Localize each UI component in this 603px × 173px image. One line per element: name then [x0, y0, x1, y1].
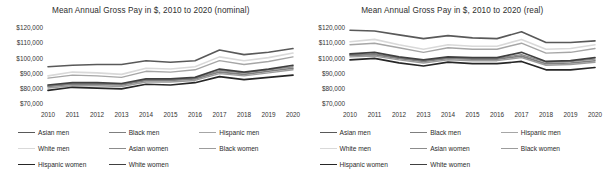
legend-line-swatch-icon [410, 132, 427, 133]
x-axis-tick-label: 2011 [367, 111, 381, 118]
legend-nominal: Asian menBlack menHispanic menWhite menA… [18, 124, 290, 172]
legend-item-asian-women[interactable]: Asian women [109, 140, 200, 156]
legend-item-label: Black men [430, 129, 461, 136]
legend-item-label: Hispanic women [340, 161, 388, 168]
legend-item-label: Black men [129, 129, 160, 136]
x-axis-tick-label: 2019 [563, 111, 578, 118]
x-axis-tick-label: 2016 [188, 111, 203, 118]
legend-item-hispanic-women[interactable]: Hispanic women [18, 156, 109, 172]
legend-item-label: Hispanic men [521, 129, 561, 136]
legend-line-swatch-icon [199, 148, 216, 149]
y-axis-tick-label: $90,000 [20, 70, 44, 77]
y-axis-tick-label: $70,000 [20, 100, 44, 107]
legend-line-swatch-icon [501, 132, 518, 133]
legend-item-hispanic-men[interactable]: Hispanic men [199, 124, 290, 140]
legend-item-asian-men[interactable]: Asian men [18, 124, 109, 140]
x-axis-tick-label: 2012 [90, 111, 105, 118]
legend-real: Asian menBlack menHispanic menWhite menA… [320, 124, 592, 172]
legend-item-label: Hispanic women [38, 161, 86, 168]
y-axis-tick-label: $120,000 [16, 24, 43, 31]
legend-line-swatch-icon [18, 164, 35, 165]
legend-item-white-men[interactable]: White men [320, 140, 411, 156]
legend-item-label: Black women [521, 145, 560, 152]
dual-chart-figure: Mean Annual Gross Pay in $, 2010 to 2020… [0, 0, 603, 173]
y-axis-tick-label: $100,000 [318, 55, 345, 62]
legend-line-swatch-icon [320, 132, 337, 133]
x-axis-tick-label: 2015 [465, 111, 480, 118]
legend-line-swatch-icon [109, 148, 126, 149]
x-axis-tick-label: 2017 [212, 111, 227, 118]
legend-item-hispanic-men[interactable]: Hispanic men [501, 124, 592, 140]
legend-line-swatch-icon [18, 148, 35, 149]
legend-item-white-women[interactable]: White women [410, 156, 501, 172]
x-axis-tick-label: 2013 [114, 111, 129, 118]
x-axis-tick-label: 2010 [41, 111, 56, 118]
page-title: Mean Annual Gross Pay in $, 2010 to 2020… [0, 6, 302, 15]
y-axis-tick-label: $100,000 [16, 55, 43, 62]
x-axis-tick-label: 2011 [66, 111, 80, 118]
legend-item-label: White women [430, 161, 470, 168]
x-axis-tick-label: 2018 [538, 111, 553, 118]
chart-panel-real: Mean Annual Gross Pay in $, 2010 to 2020… [302, 0, 603, 173]
legend-line-swatch-icon [109, 164, 126, 165]
legend-item-label: Asian women [430, 145, 470, 152]
legend-item-label: Asian men [340, 129, 371, 136]
legend-item-label: White men [38, 145, 70, 152]
x-axis-tick-label: 2017 [514, 111, 529, 118]
x-axis-tick-label: 2014 [139, 111, 154, 118]
x-axis-tick-label: 2016 [489, 111, 504, 118]
chart-panel-nominal: Mean Annual Gross Pay in $, 2010 to 2020… [0, 0, 302, 173]
legend-line-swatch-icon [109, 132, 126, 133]
legend-item-asian-women[interactable]: Asian women [410, 140, 501, 156]
y-axis-tick-label: $90,000 [321, 70, 345, 77]
legend-line-swatch-icon [410, 148, 427, 149]
legend-item-black-women[interactable]: Black women [501, 140, 592, 156]
page-title-secondary: Mean Annual Gross Pay in $, 2010 to 2020… [302, 6, 603, 15]
legend-item-label: Hispanic men [219, 129, 259, 136]
legend-line-swatch-icon [199, 132, 216, 133]
x-axis-tick-label: 2020 [587, 111, 602, 118]
legend-item-white-men[interactable]: White men [18, 140, 109, 156]
legend-line-swatch-icon [320, 148, 337, 149]
legend-line-swatch-icon [501, 148, 518, 149]
legend-item-black-men[interactable]: Black men [109, 124, 200, 140]
y-axis-tick-label: $70,000 [321, 100, 345, 107]
line-chart-svg: $120,000$110,000$100,000$90,000$80,000$7… [302, 22, 603, 122]
x-axis-tick-label: 2018 [237, 111, 252, 118]
legend-item-label: White men [340, 145, 372, 152]
x-axis-tick-label: 2015 [163, 111, 178, 118]
y-axis-tick-label: $110,000 [17, 39, 44, 46]
legend-item-white-women[interactable]: White women [109, 156, 200, 172]
line-chart-svg: $120,000$110,000$100,000$90,000$80,000$7… [0, 22, 302, 122]
x-axis-tick-label: 2012 [391, 111, 406, 118]
legend-item-asian-men[interactable]: Asian men [320, 124, 411, 140]
y-axis-tick-label: $80,000 [20, 85, 44, 92]
y-axis-tick-label: $120,000 [318, 24, 345, 31]
x-axis-tick-label: 2014 [440, 111, 455, 118]
legend-item-black-men[interactable]: Black men [410, 124, 501, 140]
plot-area-real: $120,000$110,000$100,000$90,000$80,000$7… [302, 22, 603, 122]
x-axis-tick-label: 2020 [286, 111, 301, 118]
legend-line-swatch-icon [18, 132, 35, 133]
plot-area-nominal: $120,000$110,000$100,000$90,000$80,000$7… [0, 22, 302, 122]
series-line-asian-men [48, 49, 293, 67]
legend-item-label: Asian men [38, 129, 69, 136]
series-line-white-men [350, 39, 595, 49]
y-axis-tick-label: $80,000 [321, 85, 345, 92]
y-axis-tick-label: $110,000 [318, 39, 345, 46]
legend-item-black-women[interactable]: Black women [199, 140, 290, 156]
legend-line-swatch-icon [320, 164, 337, 165]
x-axis-tick-label: 2019 [261, 111, 276, 118]
x-axis-tick-label: 2013 [416, 111, 431, 118]
series-line-asian-men [350, 30, 595, 42]
legend-item-label: White women [129, 161, 169, 168]
legend-item-label: Asian women [129, 145, 169, 152]
legend-item-hispanic-women[interactable]: Hispanic women [320, 156, 411, 172]
x-axis-tick-label: 2010 [342, 111, 357, 118]
legend-line-swatch-icon [410, 164, 427, 165]
legend-item-label: Black women [219, 145, 258, 152]
